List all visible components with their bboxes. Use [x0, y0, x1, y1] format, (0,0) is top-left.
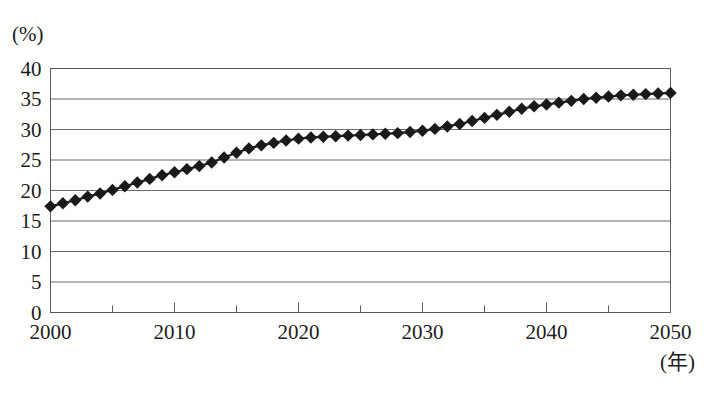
data-point-marker: [144, 173, 156, 185]
data-point-marker: [590, 92, 602, 104]
data-point-marker: [429, 123, 441, 135]
data-point-marker: [292, 132, 304, 144]
data-point-marker: [156, 169, 168, 181]
line-chart-plot: 0510152025303540 20002010202020302040205…: [0, 0, 728, 393]
data-point-marker: [354, 129, 366, 141]
data-point-marker: [131, 176, 143, 188]
data-point-marker: [615, 89, 627, 101]
data-point-marker: [392, 127, 404, 139]
y-tick-label: 5: [31, 270, 42, 294]
chart-figure: (%) 0510152025303540 2000201020202030204…: [0, 0, 728, 393]
data-point-marker: [528, 100, 540, 112]
data-series-line: [51, 93, 671, 206]
y-tick-label: 40: [21, 57, 42, 81]
data-point-marker: [491, 109, 503, 121]
data-point-marker: [565, 95, 577, 107]
data-point-marker: [69, 194, 81, 206]
data-point-marker: [106, 184, 118, 196]
data-point-marker: [342, 129, 354, 141]
data-point-marker: [553, 96, 565, 108]
data-point-marker: [454, 118, 466, 130]
y-tick-label: 30: [21, 118, 42, 142]
data-point-marker: [578, 93, 590, 105]
data-point-marker: [652, 87, 664, 99]
x-tick-marks: [51, 303, 671, 313]
data-point-marker: [255, 139, 267, 151]
data-point-marker: [503, 106, 515, 118]
data-point-marker: [640, 88, 652, 100]
data-point-marker: [478, 112, 490, 124]
data-point-marker: [44, 200, 56, 212]
data-point-marker: [193, 160, 205, 172]
y-gridlines: [51, 99, 671, 282]
data-point-marker: [230, 146, 242, 158]
y-tick-labels: 0510152025303540: [21, 57, 42, 325]
x-tick-label: 2030: [402, 320, 444, 344]
data-point-marker: [168, 166, 180, 178]
data-point-marker: [305, 131, 317, 143]
y-tick-label: 25: [21, 148, 42, 172]
x-tick-label: 2000: [30, 320, 72, 344]
data-point-marker: [94, 187, 106, 199]
x-tick-label: 2010: [154, 320, 196, 344]
data-point-marker: [540, 98, 552, 110]
data-point-marker: [57, 197, 69, 209]
data-series-markers: [44, 87, 676, 213]
data-point-marker: [367, 128, 379, 140]
y-tick-label: 15: [21, 209, 42, 233]
x-tick-label: 2020: [278, 320, 320, 344]
data-point-marker: [664, 87, 676, 99]
data-point-marker: [206, 156, 218, 168]
data-point-marker: [243, 142, 255, 154]
data-point-marker: [441, 120, 453, 132]
data-point-marker: [466, 115, 478, 127]
y-tick-label: 35: [21, 87, 42, 111]
y-tick-label: 20: [21, 179, 42, 203]
y-tick-label: 10: [21, 240, 42, 264]
data-point-marker: [516, 103, 528, 115]
data-point-marker: [602, 90, 614, 102]
data-point-marker: [330, 130, 342, 142]
data-point-marker: [404, 126, 416, 138]
data-point-marker: [82, 190, 94, 202]
x-tick-labels: 200020102020203020402050: [30, 320, 692, 344]
data-point-marker: [181, 163, 193, 175]
data-point-marker: [317, 131, 329, 143]
x-axis-unit-label: (年): [660, 352, 695, 373]
data-point-marker: [416, 125, 428, 137]
data-point-marker: [218, 151, 230, 163]
data-point-marker: [268, 137, 280, 149]
x-tick-label: 2050: [650, 320, 692, 344]
data-point-marker: [280, 134, 292, 146]
x-tick-label: 2040: [526, 320, 568, 344]
